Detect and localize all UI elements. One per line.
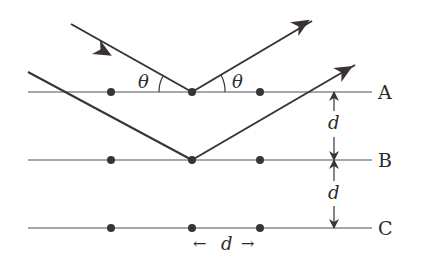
theta-label-incident: θ <box>138 73 149 91</box>
reflected-arrowhead-lower <box>333 59 357 82</box>
atom <box>107 156 115 164</box>
atom <box>256 156 264 164</box>
horizontal-spacing-right-arrow: → <box>241 236 254 252</box>
spacing-label-bc: d <box>328 184 340 202</box>
plane-label-c: C <box>378 219 393 238</box>
angle-arc-reflected <box>221 75 225 92</box>
atom <box>188 224 196 232</box>
spacing-label-horizontal: d <box>221 235 233 253</box>
atom <box>107 224 115 232</box>
horizontal-spacing-left-arrow: ← <box>193 236 206 252</box>
atom <box>107 88 115 96</box>
upper-ray <box>71 21 312 92</box>
diagram-canvas <box>0 0 422 266</box>
angle-arc-incident <box>159 76 163 92</box>
lower-ray <box>28 65 355 160</box>
plane-label-a: A <box>378 83 392 102</box>
atom <box>188 88 196 96</box>
theta-label-reflected: θ <box>232 73 243 91</box>
atom <box>256 88 264 96</box>
spacing-label-ab: d <box>328 114 340 132</box>
atom <box>256 224 264 232</box>
bragg-diagram: θ θ A B C d d ← d → <box>0 0 422 266</box>
atom <box>188 156 196 164</box>
plane-label-b: B <box>378 151 392 170</box>
